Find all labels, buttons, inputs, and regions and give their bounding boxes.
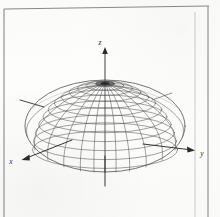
axis-lines-front bbox=[24, 84, 192, 186]
z-axis-arrowhead bbox=[102, 47, 108, 54]
page-frame bbox=[4, 6, 209, 217]
negative-y-axis-stub bbox=[20, 100, 44, 107]
figure-container: x y z bbox=[0, 0, 220, 217]
y-axis bbox=[143, 144, 192, 150]
y-axis-label: y bbox=[199, 149, 204, 158]
frame-top-rule bbox=[4, 6, 209, 9]
z-axis-label: z bbox=[98, 38, 102, 47]
meridian bbox=[80, 84, 105, 171]
x-axis-arrowhead bbox=[22, 155, 30, 161]
x-axis-label: x bbox=[8, 157, 13, 166]
ellipsoid-figure: x y z bbox=[0, 0, 220, 217]
meridian-far bbox=[105, 84, 180, 110]
y-axis-arrowhead bbox=[187, 147, 195, 153]
meridian bbox=[105, 84, 146, 167]
axis-lines-back bbox=[20, 50, 172, 107]
meridian bbox=[64, 84, 105, 167]
meridian bbox=[105, 84, 130, 171]
